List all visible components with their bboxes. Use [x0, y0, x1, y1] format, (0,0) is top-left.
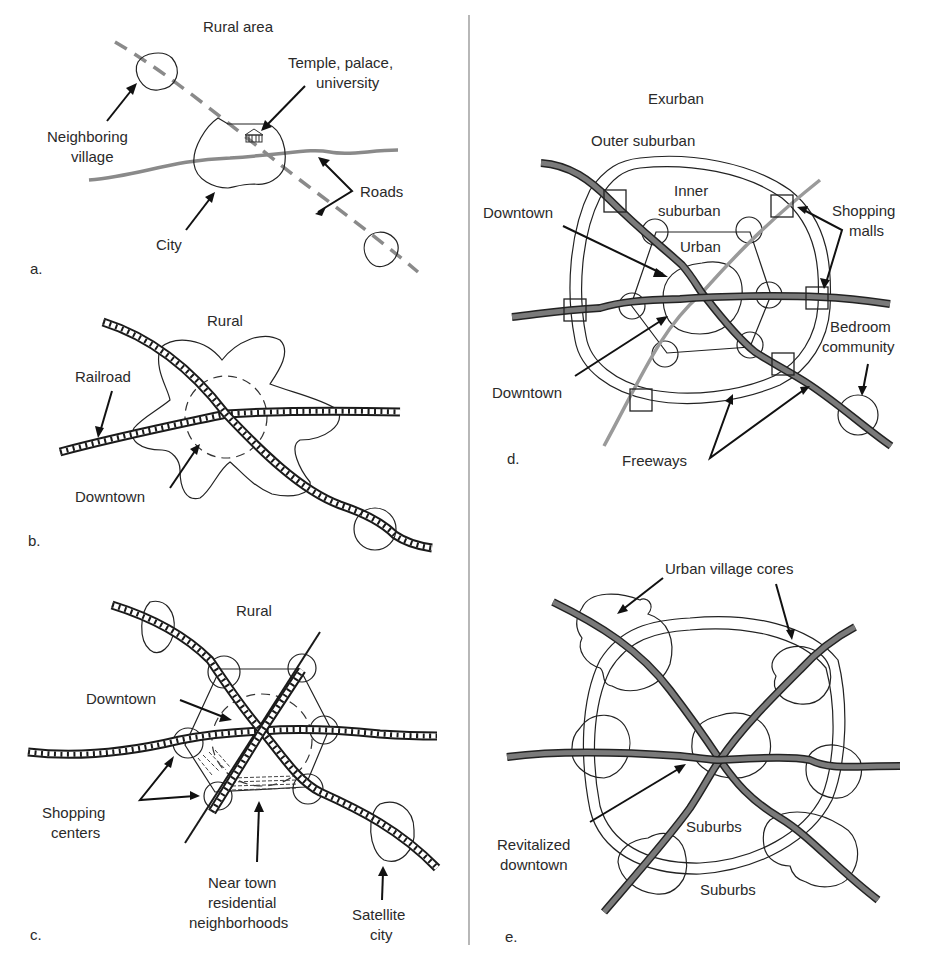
label-freeways: Freeways	[622, 452, 687, 469]
label-shopping-malls-1: Shopping	[832, 202, 895, 219]
panel-c-title: Rural	[236, 602, 272, 619]
panel-a-title: Rural area	[203, 18, 274, 35]
label-neighboring-1: Neighboring	[47, 128, 128, 145]
label-revitalized-2: downtown	[500, 856, 568, 873]
label-urban: Urban	[680, 238, 721, 255]
label-satellite-2: city	[370, 926, 393, 943]
panel-d-title: Exurban	[648, 90, 704, 107]
panel-d: Exurban Outer suburban	[483, 90, 895, 469]
label-bedroom-2: community	[822, 338, 895, 355]
label-outer-suburban: Outer suburban	[591, 132, 695, 149]
arrow-satellite-city	[382, 872, 383, 900]
freeway-e-east-west	[507, 752, 900, 766]
label-revitalized-1: Revitalized	[497, 836, 570, 853]
arrow-revitalized-downtown	[590, 768, 680, 822]
label-shopping-1: Shopping	[42, 804, 105, 821]
panel-b: Rural Railroad Downtown b.	[28, 312, 432, 550]
label-urban-village-cores: Urban village cores	[665, 560, 793, 577]
arrow-village-core-ne	[776, 584, 790, 634]
panel-e: Urban village cores Subu	[497, 560, 900, 945]
label-downtown-b: Downtown	[75, 488, 145, 505]
arrow-railroad	[100, 391, 112, 432]
panel-b-label: b.	[28, 532, 41, 549]
label-satellite-1: Satellite	[352, 906, 405, 923]
arrow-village-core-nw	[622, 578, 663, 610]
panel-a-label: a.	[30, 260, 43, 277]
label-suburbs-inner: Suburbs	[686, 818, 742, 835]
panel-c-label: c.	[30, 926, 42, 943]
panel-e-label: e.	[505, 928, 518, 945]
panel-b-title: Rural	[207, 312, 243, 329]
label-near-town-2: residential	[208, 894, 276, 911]
arrow-downtown-bottom	[575, 320, 662, 376]
arrow-temple	[266, 86, 305, 126]
panel-c: Rural	[28, 601, 437, 943]
outer-ring-inner	[582, 167, 819, 393]
suburban-node-sw	[652, 341, 678, 367]
panel-d-label: d.	[507, 450, 520, 467]
arrow-shopping-malls	[800, 208, 842, 283]
label-downtown-c: Downtown	[86, 690, 156, 707]
label-neighboring-2: village	[71, 148, 114, 165]
label-shopping-2: centers	[51, 824, 100, 841]
label-downtown-d-bottom: Downtown	[492, 384, 562, 401]
label-suburbs-outer: Suburbs	[700, 881, 756, 898]
label-downtown-d-top: Downtown	[483, 204, 553, 221]
railroad-northwest-southeast	[103, 322, 432, 548]
arrow-freeways	[710, 389, 805, 458]
label-roads: Roads	[360, 183, 403, 200]
arrow-near-town	[257, 807, 259, 862]
village-core-e	[806, 745, 861, 798]
village-core-ne	[772, 646, 831, 704]
railroad-c-east-west	[28, 730, 437, 755]
label-temple-2: university	[316, 74, 380, 91]
arrow-neighboring-village	[107, 87, 134, 121]
label-near-town-1: Near town	[208, 874, 276, 891]
arrow-downtown-c	[180, 700, 226, 718]
suburban-node-ne	[736, 217, 762, 243]
solid-road	[89, 150, 398, 180]
label-city: City	[156, 236, 182, 253]
label-bedroom-1: Bedroom	[830, 318, 891, 335]
label-temple-1: Temple, palace,	[288, 54, 393, 71]
railroad-c-sw-ne	[212, 670, 302, 812]
label-inner-suburban-1: Inner	[674, 182, 708, 199]
village-core-w	[572, 715, 630, 778]
label-railroad: Railroad	[75, 368, 131, 385]
arrow-roads	[318, 160, 352, 212]
urban-growth-diagram: Rural area Temple, palace, uni	[0, 0, 928, 978]
label-inner-suburban-2: suburban	[658, 202, 721, 219]
label-near-town-3: neighborhoods	[189, 914, 288, 931]
panel-a: Rural area Temple, palace, uni	[30, 18, 418, 277]
label-shopping-malls-2: malls	[849, 222, 884, 239]
arrow-downtown	[170, 448, 197, 488]
arrow-city	[186, 196, 212, 230]
